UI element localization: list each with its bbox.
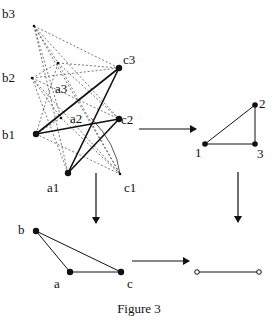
node-label-a: a <box>54 276 60 291</box>
dashed-edge-b3-c3 <box>34 26 119 68</box>
node-label-c1: c1 <box>124 180 136 195</box>
node-label-a3: a3 <box>55 81 67 96</box>
node-a3 <box>57 62 60 65</box>
node-a <box>67 269 73 275</box>
edge-b-c <box>36 231 121 272</box>
node-a1 <box>65 170 71 176</box>
arrows <box>96 129 238 261</box>
node-1 <box>202 141 208 147</box>
node-label-b1: b1 <box>2 127 15 142</box>
node-label-c: c <box>127 276 133 291</box>
node-label-b3: b3 <box>2 6 15 21</box>
node-b1 <box>33 131 39 137</box>
node-label-2: 2 <box>259 96 266 111</box>
node-label-a2: a2 <box>70 111 82 126</box>
dashed-edge-b3-a1 <box>34 26 68 173</box>
dashed-edge-b3-a2 <box>34 26 61 118</box>
figure-3-diagram: b3b2b1a3a2a1c3c2c1 123 bac Figure 3 <box>0 0 278 323</box>
node-c <box>118 269 124 275</box>
node-label-b2: b2 <box>2 70 15 85</box>
open-node-p <box>195 270 200 275</box>
node-2 <box>252 102 258 108</box>
tripartite-dashed-edges <box>32 26 120 174</box>
node-b3 <box>33 25 36 28</box>
node-a2 <box>60 117 63 120</box>
triangle-123: 123 <box>195 96 266 161</box>
edge-b-a <box>36 231 70 272</box>
open-node-q <box>257 270 262 275</box>
node-b <box>33 228 39 234</box>
dashed-edge-b3-c1 <box>34 26 120 174</box>
node-label-a1: a1 <box>47 180 59 195</box>
node-label-c3: c3 <box>123 52 135 67</box>
figure-caption: Figure 3 <box>117 301 161 316</box>
node-label-1: 1 <box>195 145 202 160</box>
node-c3 <box>116 65 122 71</box>
triangle-abc: bac <box>18 222 133 291</box>
open-segment <box>195 270 262 275</box>
dashed-edge-a3-c1 <box>58 63 120 174</box>
edge-1-2 <box>205 105 255 144</box>
node-label-b: b <box>18 222 25 237</box>
tripartite-nodes: b3b2b1a3a2a1c3c2c1 <box>2 6 136 195</box>
node-b2 <box>31 77 34 80</box>
node-label-c2: c2 <box>121 112 133 127</box>
node-label-3: 3 <box>257 146 264 161</box>
node-c1 <box>119 173 122 176</box>
